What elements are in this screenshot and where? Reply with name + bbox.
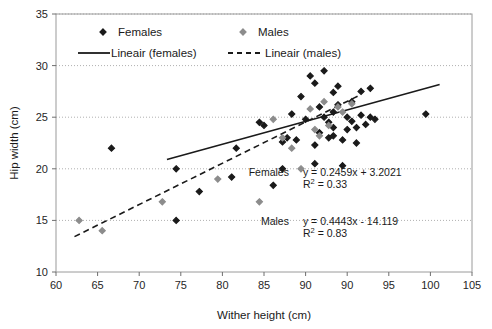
y-axis-tick-label: 15 — [36, 214, 48, 226]
y-axis-title: Hip width (cm) — [8, 106, 20, 180]
x-axis-title: Wither height (cm) — [217, 309, 311, 321]
data-point-females — [196, 188, 202, 194]
data-point-females — [344, 126, 350, 132]
data-point-females — [270, 182, 276, 188]
data-point-females — [335, 83, 341, 89]
data-point-females — [229, 174, 235, 180]
males-equation-label: Males — [261, 215, 289, 227]
x-axis-tick-label: 75 — [175, 279, 187, 291]
x-axis-tick-label: 90 — [341, 279, 353, 291]
x-axis-tick-label: 95 — [383, 279, 395, 291]
females-equation-label: Females — [249, 166, 289, 178]
data-point-females — [312, 142, 318, 148]
x-axis-tick-label: 100 — [421, 279, 439, 291]
data-point-females — [173, 166, 179, 172]
females-equation-r2: R2 = 0.33 — [303, 177, 347, 191]
data-point-males — [279, 135, 285, 141]
data-point-females — [339, 137, 345, 143]
data-point-females — [353, 124, 359, 130]
y-axis-tick-label: 10 — [36, 266, 48, 278]
data-point-females — [367, 85, 373, 91]
data-point-males — [289, 145, 295, 151]
x-axis-tick-label: 90 — [299, 279, 311, 291]
data-point-females — [363, 121, 369, 127]
data-point-females — [307, 73, 313, 79]
legend-label-females: Females — [118, 26, 162, 38]
legend-label-lineair-males: Lineair (males) — [265, 47, 341, 59]
data-point-males — [215, 176, 221, 182]
scatter-chart: 606570758085909095100105101520253035With… — [0, 0, 492, 329]
data-point-males — [307, 106, 313, 112]
y-axis-tick-label: 20 — [36, 163, 48, 175]
data-point-females — [289, 111, 295, 117]
legend-label-lineair-females: Lineair (females) — [111, 47, 197, 59]
data-point-males — [76, 217, 82, 223]
data-point-females — [353, 140, 359, 146]
data-point-females — [358, 112, 364, 118]
data-point-females — [423, 111, 429, 117]
data-point-males — [99, 228, 105, 234]
chart-canvas: 606570758085909095100105101520253035With… — [0, 0, 492, 329]
data-point-females — [330, 89, 336, 95]
data-point-females — [233, 145, 239, 151]
data-point-males — [256, 199, 262, 205]
x-axis-tick-label: 85 — [258, 279, 270, 291]
males-equation-r2: R2 = 0.83 — [303, 225, 347, 239]
y-axis-tick-label: 35 — [36, 8, 48, 20]
males-equation-equation: y = 0.4443x - 14.119 — [303, 215, 398, 227]
x-axis-tick-label: 60 — [50, 279, 62, 291]
legend-marker-males — [240, 29, 246, 35]
y-axis-tick-label: 30 — [36, 60, 48, 72]
data-point-males — [321, 99, 327, 105]
data-point-females — [293, 137, 299, 143]
data-point-females — [316, 104, 322, 110]
legend-label-males: Males — [258, 26, 289, 38]
data-point-females — [344, 114, 350, 120]
data-point-males — [159, 199, 165, 205]
females-equation-equation: y = 0.2459x + 3.2021 — [303, 166, 402, 178]
data-point-females — [349, 118, 355, 124]
data-point-females — [173, 217, 179, 223]
data-point-females — [108, 145, 114, 151]
x-axis-tick-label: 70 — [133, 279, 145, 291]
data-point-females — [298, 93, 304, 99]
legend-marker-females — [100, 29, 106, 35]
data-point-females — [312, 80, 318, 86]
y-axis-tick-label: 25 — [36, 111, 48, 123]
x-axis-tick-label: 80 — [216, 279, 228, 291]
data-point-females — [358, 88, 364, 94]
x-axis-tick-label: 65 — [91, 279, 103, 291]
x-axis-tick-label: 105 — [463, 279, 481, 291]
data-point-females — [321, 68, 327, 74]
